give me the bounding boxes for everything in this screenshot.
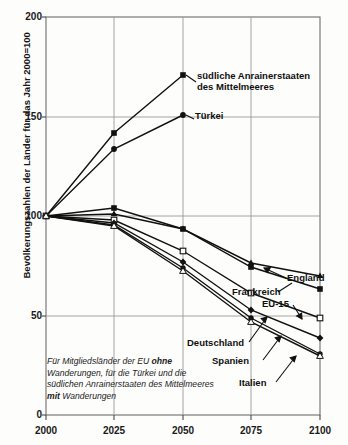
label-tuerkei: Türkei xyxy=(195,110,224,121)
chart-annotation: Für Mitgliedsländer der EU ohne Wanderun… xyxy=(47,356,215,402)
chart-container: Bevölkerungszahlen der Länder für das Ja… xyxy=(0,0,348,445)
label-suedliche-anrainerstaaten: südliche Anrainerstaaten des Mittelmeere… xyxy=(197,70,310,92)
label-spanien: Spanien xyxy=(212,355,249,366)
series-tuerkei xyxy=(43,112,186,219)
label-eu15: EU-15 xyxy=(262,298,289,309)
label-med-line1: südliche Anrainerstaaten xyxy=(197,70,310,81)
label-frankreich: Frankreich xyxy=(232,286,281,297)
label-deutschland: Deutschland xyxy=(187,337,244,348)
label-med-line2: des Mittelmeeres xyxy=(197,81,274,92)
label-england: England xyxy=(287,272,324,283)
label-italien: Italien xyxy=(239,377,266,388)
